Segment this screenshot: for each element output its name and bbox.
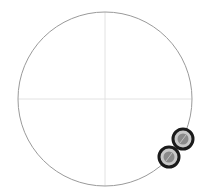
plot-canvas (0, 0, 208, 195)
markers-group (159, 129, 193, 167)
polar-plot (0, 0, 208, 195)
marker-2 (159, 147, 179, 167)
marker-1 (173, 129, 193, 149)
